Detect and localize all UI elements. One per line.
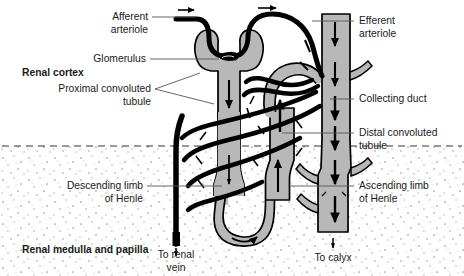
nephron-figure-canvas: Afferent arteriole Glomerulus Renal cort… — [0, 0, 464, 276]
collecting-duct-label: Collecting duct — [359, 93, 427, 104]
to-renal-vein-label-line2: vein — [167, 262, 186, 273]
efferent-arteriole-label-line2: arteriole — [359, 28, 396, 39]
renal-cortex-label: Renal cortex — [22, 67, 84, 78]
distal-tubule-label-line1: Distal convoluted — [359, 127, 438, 138]
afferent-arteriole-label-line1: Afferent — [112, 11, 148, 22]
to-renal-vein-label-line1: To renal — [158, 249, 195, 260]
renal-vein-terminal — [173, 232, 181, 246]
renal-medulla-label: Renal medulla and papilla — [22, 244, 149, 255]
to-calyx-label: To calyx — [314, 252, 352, 263]
glomerular-capillary-tuft — [219, 53, 238, 61]
ascending-limb-label-line2: of Henle — [359, 193, 398, 204]
glomerulus-label: Glomerulus — [93, 53, 146, 64]
descending-limb-label-line2: of Henle — [105, 193, 144, 204]
afferent-arteriole-label-line2: arteriole — [111, 24, 148, 35]
efferent-arteriole-label-line1: Efferent — [359, 15, 395, 26]
nephron-diagram: Afferent arteriole Glomerulus Renal cort… — [0, 0, 464, 276]
distal-tubule-label-line2: tubule — [359, 140, 387, 151]
ascending-limb-label-line1: Ascending limb — [359, 180, 429, 191]
proximal-tubule-label-line2: tubule — [123, 96, 151, 107]
descending-limb-label-line1: Descending limb — [67, 180, 143, 191]
proximal-tubule-label-line1: Proximal convoluted — [58, 83, 151, 94]
